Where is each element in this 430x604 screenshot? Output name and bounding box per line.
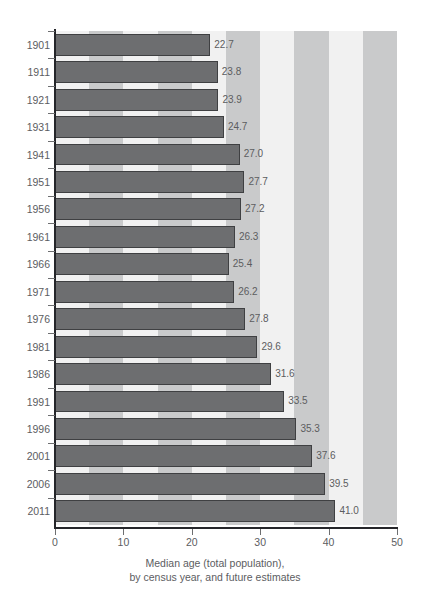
bar [55,445,312,467]
median-age-bar-chart: 22.723.823.924.727.027.727.226.325.426.2… [0,0,430,604]
bar [55,144,240,166]
bar-row: 26.2 [55,281,397,303]
y-axis-tick [48,251,55,252]
y-axis-tick [48,415,55,416]
bar-value-label: 26.3 [235,232,258,242]
caption-line-1: Median age (total population), [0,556,430,570]
y-axis-tick [48,333,55,334]
y-axis-tick [48,388,55,389]
bar-value-label: 27.8 [245,314,268,324]
bar [55,418,296,440]
x-axis-tick-label: 0 [52,537,58,548]
y-axis-tick [48,196,55,197]
bar [55,61,218,83]
y-axis-tick [48,168,55,169]
y-axis-tick [48,498,55,499]
x-axis-tick-label: 30 [254,537,266,548]
bar-value-label: 24.7 [224,122,247,132]
y-axis-tick-label: 1976 [10,314,50,325]
bar-value-label: 23.8 [218,67,241,77]
bar-row: 29.6 [55,336,397,358]
bar-value-label: 37.6 [312,451,335,461]
bar [55,500,335,522]
bar-value-label: 26.2 [234,287,257,297]
y-axis-tick-label: 1996 [10,424,50,435]
y-axis-tick-label: 1931 [10,122,50,133]
bar [55,198,241,220]
x-axis-tick [329,529,330,535]
x-axis-tick-label: 20 [186,537,198,548]
y-axis-tick-label: 1966 [10,259,50,270]
bar-row: 22.7 [55,34,397,56]
bar-value-label: 25.4 [229,259,252,269]
y-axis-tick [48,278,55,279]
bar [55,116,224,138]
bar-row: 31.6 [55,363,397,385]
bar-row: 23.8 [55,61,397,83]
bar [55,34,210,56]
y-axis-tick-labels: 1901191119211931194119511956196119661971… [0,31,50,525]
bar [55,363,271,385]
bar [55,89,218,111]
x-axis-ticks: 01020304050 [55,529,397,551]
bar-row: 24.7 [55,116,397,138]
y-axis-tick [48,305,55,306]
y-axis-tick [48,86,55,87]
y-axis-tick-label: 2001 [10,451,50,462]
y-axis-tick [48,470,55,471]
y-axis-tick-label: 2011 [10,506,50,517]
bar-value-label: 33.5 [284,396,307,406]
bar [55,171,244,193]
bar-value-label: 27.0 [240,149,263,159]
bar [55,281,234,303]
x-axis-tick [260,529,261,535]
bar-row: 23.9 [55,89,397,111]
y-axis-tick [48,360,55,361]
bar-value-label: 22.7 [210,40,233,50]
y-axis-tick-label: 1981 [10,342,50,353]
bar-row: 33.5 [55,391,397,413]
bar-value-label: 35.3 [296,424,319,434]
bar-value-label: 27.7 [244,177,267,187]
x-axis-tick [123,529,124,535]
x-axis-tick-label: 40 [323,537,335,548]
bar [55,226,235,248]
y-axis-tick-label: 1921 [10,95,50,106]
y-axis-tick [48,31,55,32]
x-axis-tick-label: 50 [391,537,403,548]
bar-row: 26.3 [55,226,397,248]
bar-value-label: 39.5 [325,479,348,489]
plot-area: 22.723.823.924.727.027.727.226.325.426.2… [55,31,397,525]
bar-value-label: 27.2 [241,204,264,214]
y-axis-tick-label: 1971 [10,287,50,298]
bar-value-label: 23.9 [218,95,241,105]
bar-row: 39.5 [55,473,397,495]
x-axis-tick [55,529,56,535]
y-axis-tick [48,443,55,444]
bar-row: 27.2 [55,198,397,220]
bar [55,336,257,358]
bar [55,253,229,275]
y-axis-tick [48,141,55,142]
y-axis-tick-label: 1991 [10,397,50,408]
bar-row: 41.0 [55,500,397,522]
bar-row: 27.8 [55,308,397,330]
y-axis-tick-label: 1911 [10,67,50,78]
caption-line-2: by census year, and future estimates [0,570,430,584]
bar [55,391,284,413]
bar-row: 27.0 [55,144,397,166]
bar-series: 22.723.823.924.727.027.727.226.325.426.2… [55,31,397,525]
y-axis-tick-label: 1961 [10,232,50,243]
x-axis-tick-label: 10 [118,537,130,548]
bar-row: 37.6 [55,445,397,467]
x-axis-tick [397,529,398,535]
bar-row: 27.7 [55,171,397,193]
bar-value-label: 41.0 [335,506,358,516]
y-axis-tick-label: 1986 [10,369,50,380]
bar-value-label: 31.6 [271,369,294,379]
bar-row: 25.4 [55,253,397,275]
y-axis-tick-label: 2006 [10,479,50,490]
bar-row: 35.3 [55,418,397,440]
y-axis-tick [48,58,55,59]
bar-value-label: 29.6 [257,342,280,352]
